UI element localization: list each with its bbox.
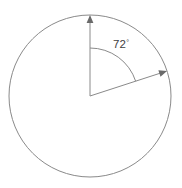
radius-slanted-line [90,72,163,96]
angle-label: 72° [113,38,129,50]
angle-arc [90,48,136,81]
circle-angle-figure: 72° [0,0,182,188]
figure-svg: 72° [0,0,182,188]
arrowhead-top-icon [87,15,94,23]
angle-label-value: 72 [113,38,126,50]
degree-symbol: ° [126,39,129,46]
arrowhead-right-icon [158,70,167,76]
